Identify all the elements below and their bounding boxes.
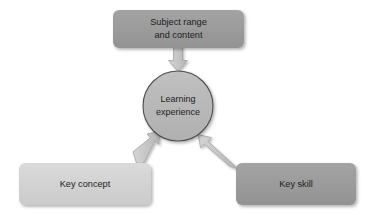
node-key-concept-label: Key concept: [60, 179, 111, 189]
node-key-concept[interactable]: Key concept: [19, 163, 151, 205]
arrow-key-skill-to-center: [198, 135, 240, 171]
node-key-skill-label: Key skill: [279, 179, 313, 189]
node-subject-range-and-content-label-line2: and content: [154, 30, 202, 40]
learning-experience-diagram: Subject range and content Key concept Ke…: [0, 0, 373, 215]
node-subject-range-and-content[interactable]: Subject range and content: [113, 10, 244, 48]
node-learning-experience-label-line2: experience: [156, 107, 200, 117]
arrow-key-concept-to-center: [133, 131, 160, 168]
node-subject-range-and-content-label-line1: Subject range: [150, 17, 207, 27]
node-learning-experience-label-line1: Learning: [160, 94, 195, 104]
diagram-canvas: Subject range and content Key concept Ke…: [0, 0, 373, 215]
arrow-subject-range-to-center: [169, 46, 188, 72]
node-key-skill[interactable]: Key skill: [236, 163, 356, 205]
node-learning-experience[interactable]: Learning experience: [143, 71, 213, 141]
